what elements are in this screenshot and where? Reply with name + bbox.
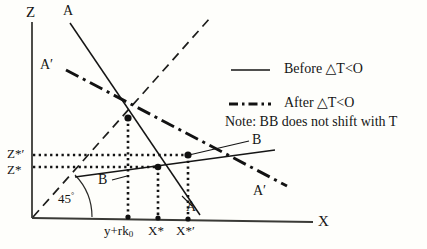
bb-curve-label-right: B (252, 133, 261, 147)
legend-label-before: Before △T<O (284, 62, 363, 76)
bb-left-label-leader (112, 176, 127, 180)
tick-dot-x-star-prime (185, 216, 190, 221)
aa-curve-label-bottom: A (186, 200, 196, 214)
x-tick-label-x-star: X* (148, 224, 164, 237)
degree-symbol: ° (71, 191, 74, 200)
x-tick-label-x-star-prime: X*′ (176, 224, 195, 237)
angle-value: 45 (58, 191, 71, 206)
equilibrium-point-before (155, 164, 162, 171)
aa-prime-curve-label-bottom: A′ (253, 184, 266, 198)
note-text: Note: BB does not shift with T (225, 115, 397, 129)
equilibrium-point-45-line (124, 114, 131, 121)
angle-label: 45° (58, 192, 74, 205)
legend-label-after: After △T<O (284, 96, 354, 110)
bb-curve-label-left: B (98, 173, 107, 187)
y-tick-label-z-star: Z* (7, 163, 21, 176)
tick-dot-y-plus-rk0 (125, 214, 130, 219)
x-axis (32, 218, 313, 222)
aa-curve (70, 23, 200, 215)
x-tick-subscript: 0 (129, 229, 134, 239)
bb-right-label-leader (189, 141, 249, 155)
x-axis-label: X (318, 214, 329, 229)
forty-five-degree-line (33, 18, 210, 217)
tick-dot-x-star (155, 215, 160, 220)
diagram-canvas: Z X A A A′ A′ B B Z*′ Z* y+rk0 X* X*′ 45… (0, 0, 427, 249)
y-axis-label: Z (26, 5, 35, 20)
aa-curve-label-top: A (63, 4, 73, 18)
forty-five-degree-arc (75, 175, 92, 217)
x-tick-label-y-plus-rk0: y+rk0 (104, 224, 133, 239)
y-tick-label-z-star-prime: Z*′ (7, 147, 24, 160)
aa-prime-curve-label-top: A′ (40, 58, 53, 72)
x-tick-text: y+rk (104, 223, 129, 238)
